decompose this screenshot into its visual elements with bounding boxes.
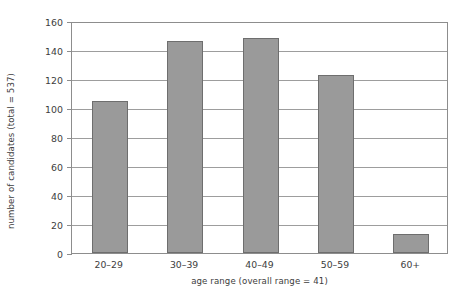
y-tick-label: 0 [23, 249, 63, 260]
bar-40–49 [243, 38, 279, 253]
gridline [72, 22, 447, 23]
x-tick-label: 40–49 [245, 259, 273, 270]
y-axis-title: number of candidates (total = 537) [0, 0, 22, 302]
bar-30–39 [167, 41, 203, 253]
y-tick-mark [67, 109, 72, 110]
x-tick-label: 50–59 [321, 259, 349, 270]
y-tick-mark [67, 51, 72, 52]
y-tick-mark [67, 254, 72, 255]
y-tick-label: 20 [23, 220, 63, 231]
y-tick-mark [67, 167, 72, 168]
x-tick-label: 30–39 [170, 259, 198, 270]
x-tick-label: 20–29 [95, 259, 123, 270]
bar-50–59 [318, 75, 354, 253]
y-tick-label: 40 [23, 191, 63, 202]
bar-chart: number of candidates (total = 537) age r… [0, 0, 465, 302]
y-tick-mark [67, 22, 72, 23]
y-tick-mark [67, 196, 72, 197]
y-tick-mark [67, 138, 72, 139]
y-tick-label: 80 [23, 133, 63, 144]
bar-20–29 [92, 101, 128, 253]
y-tick-label: 60 [23, 162, 63, 173]
plot-area [71, 22, 448, 254]
x-axis-title: age range (overall range = 41) [71, 276, 448, 286]
y-tick-label: 160 [23, 17, 63, 28]
x-tick-label: 60+ [400, 259, 420, 270]
y-tick-label: 140 [23, 46, 63, 57]
y-tick-label: 100 [23, 104, 63, 115]
y-tick-mark [67, 225, 72, 226]
y-tick-mark [67, 80, 72, 81]
bar-60+ [393, 234, 429, 253]
y-tick-label: 120 [23, 75, 63, 86]
